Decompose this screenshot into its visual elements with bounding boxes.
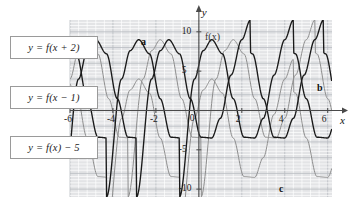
x-axis-arrow [342,107,348,113]
answer-box-c[interactable]: y = f(x) − 5 [10,136,98,159]
answer-text: y = f(x) − 5 [28,142,80,153]
answer-box-a[interactable]: y = f(x + 2) [10,36,98,59]
y-tick-label--10: -10 [179,183,192,193]
answer-box-b[interactable]: y = f(x − 1) [10,86,98,109]
x-tick-label-6: 6 [322,114,327,124]
x-tick-label-2: 2 [236,114,241,124]
graph-figure: y = f(x + 2)y = f(x − 1)y = f(x) − 5-6-4… [0,0,350,212]
answer-text: y = f(x + 2) [28,42,80,53]
curve-label-a: a [141,36,146,47]
y-tick-label-10: 10 [182,26,192,36]
x-axis-label: x [340,114,345,126]
origin-label: 0 [190,113,195,123]
curve-label-fx: f(x) [205,31,220,42]
answer-text: y = f(x − 1) [28,92,80,103]
x-tick-label--4: -4 [107,114,115,124]
x-tick-label-4: 4 [279,114,284,124]
x-tick-label--6: -6 [64,114,72,124]
y-axis-label: y [202,6,207,18]
y-tick-label--5: -5 [179,144,187,154]
y-tick-label-5: 5 [182,65,187,75]
curve-label-c: c [279,183,283,194]
x-tick-label--2: -2 [150,114,158,124]
curve-label-b: b [317,82,323,93]
